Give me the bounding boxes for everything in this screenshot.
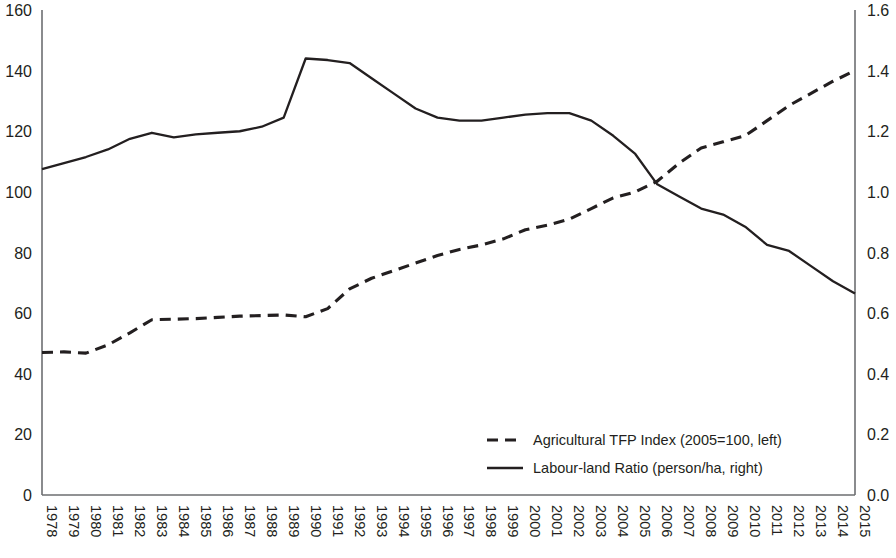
x-axis-tick: 2006 <box>659 505 675 537</box>
legend-label-1: Agricultural TFP Index (2005=100, left) <box>533 432 782 448</box>
x-axis-tick: 1997 <box>461 505 477 537</box>
left-axis-tick: 60 <box>14 305 32 322</box>
x-axis-tick: 2001 <box>549 505 565 537</box>
x-axis-tick: 2015 <box>857 505 873 537</box>
left-axis-tick: 100 <box>5 184 32 201</box>
x-axis-tick: 2012 <box>791 505 807 537</box>
x-axis-tick: 1987 <box>242 505 258 537</box>
right-axis-tick: 0.4 <box>867 366 889 383</box>
left-axis-tick-labels: 020406080100120140160 <box>5 2 32 504</box>
right-axis-tick: 1.4 <box>867 63 889 80</box>
x-axis-tick: 1984 <box>176 505 192 537</box>
x-axis-tick: 2000 <box>527 505 543 537</box>
left-axis-tick: 80 <box>14 245 32 262</box>
x-axis-tick: 1983 <box>154 505 170 537</box>
chart-legend: Agricultural TFP Index (2005=100, left)L… <box>487 432 782 476</box>
x-axis-tick: 1985 <box>198 505 214 537</box>
x-axis-tick: 2004 <box>615 505 631 537</box>
x-axis-tick: 1993 <box>374 505 390 537</box>
x-axis-tick: 1994 <box>396 505 412 537</box>
right-axis-tick: 0.2 <box>867 426 889 443</box>
right-axis-tick: 0.0 <box>867 487 889 504</box>
right-axis-tick: 0.8 <box>867 245 889 262</box>
chart-container: 020406080100120140160 0.00.20.40.60.81.0… <box>0 0 896 558</box>
series-line-labour-land-ratio <box>42 59 855 294</box>
x-axis-tick: 1988 <box>264 505 280 537</box>
x-axis-tick: 1986 <box>220 505 236 537</box>
left-axis-tick: 20 <box>14 426 32 443</box>
x-axis-tick: 2007 <box>681 505 697 537</box>
x-axis-tick: 1999 <box>505 505 521 537</box>
x-axis-tick: 2008 <box>703 505 719 537</box>
right-axis-tick: 1.6 <box>867 2 889 19</box>
series-line-agricultural-tfp-index <box>42 71 855 354</box>
x-axis-tick: 1989 <box>286 505 302 537</box>
x-axis-tick: 2005 <box>637 505 653 537</box>
x-axis-tick: 1981 <box>110 505 126 537</box>
right-axis-tick-labels: 0.00.20.40.60.81.01.21.41.6 <box>867 2 889 504</box>
x-axis-tick: 2010 <box>747 505 763 537</box>
left-axis-tick: 160 <box>5 2 32 19</box>
right-axis-tick: 1.0 <box>867 184 889 201</box>
x-axis-tick: 1992 <box>352 505 368 537</box>
x-axis-tick: 1990 <box>308 505 324 537</box>
x-axis-tick: 1996 <box>440 505 456 537</box>
x-axis-tick: 1991 <box>330 505 346 537</box>
left-axis-tick: 140 <box>5 63 32 80</box>
legend-label-2: Labour-land Ratio (person/ha, right) <box>533 460 763 476</box>
x-axis-tick: 2002 <box>571 505 587 537</box>
left-axis-tick: 40 <box>14 366 32 383</box>
x-axis-tick: 1998 <box>483 505 499 537</box>
x-axis-tick: 1978 <box>44 505 60 537</box>
x-axis-tick: 1979 <box>66 505 82 537</box>
right-axis-tick: 0.6 <box>867 305 889 322</box>
x-axis-tick-labels: 1978197919801981198219831984198519861987… <box>44 505 873 537</box>
left-axis-tick: 120 <box>5 123 32 140</box>
x-axis-tick: 2003 <box>593 505 609 537</box>
x-axis-tick: 1982 <box>132 505 148 537</box>
dual-axis-line-chart: 020406080100120140160 0.00.20.40.60.81.0… <box>0 0 896 558</box>
right-axis-tick: 1.2 <box>867 123 889 140</box>
left-axis-tick: 0 <box>23 487 32 504</box>
x-axis-tick: 1980 <box>88 505 104 537</box>
x-axis-tick: 2011 <box>769 505 785 536</box>
x-axis-tick: 2009 <box>725 505 741 537</box>
x-axis-tick: 2014 <box>835 505 851 537</box>
x-axis-tick: 1995 <box>418 505 434 537</box>
x-axis-tick: 2013 <box>813 505 829 537</box>
